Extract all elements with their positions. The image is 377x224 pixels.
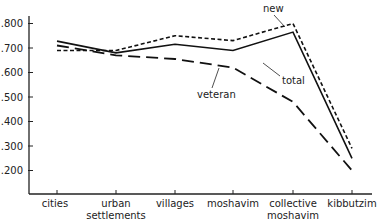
y-tick-label: .600 <box>1 67 23 78</box>
series-label-new: new <box>263 3 284 14</box>
y-tick-label: .800 <box>1 18 23 29</box>
y-tick-label: .300 <box>1 141 23 152</box>
x-category-label: villages <box>156 198 194 209</box>
y-tick-label: .200 <box>1 165 23 176</box>
x-category-label: moshavim <box>267 210 319 221</box>
x-category-label: moshavim <box>207 198 259 209</box>
x-category-label: collective <box>269 198 317 209</box>
x-category-label: kibbutzim <box>327 198 376 209</box>
x-category-label: settlements <box>86 210 146 221</box>
y-tick-label: .400 <box>1 116 23 127</box>
series-label-veteran: veteran <box>197 89 236 100</box>
y-tick-label: .700 <box>1 43 23 54</box>
series-label-total: total <box>282 75 305 86</box>
line-chart: .200.300.400.500.600.700.800citiesurbans… <box>0 0 377 224</box>
x-category-label: urban <box>101 198 130 209</box>
y-tick-label: .500 <box>1 92 23 103</box>
x-category-label: cities <box>42 198 68 209</box>
series-new-line <box>57 24 352 149</box>
